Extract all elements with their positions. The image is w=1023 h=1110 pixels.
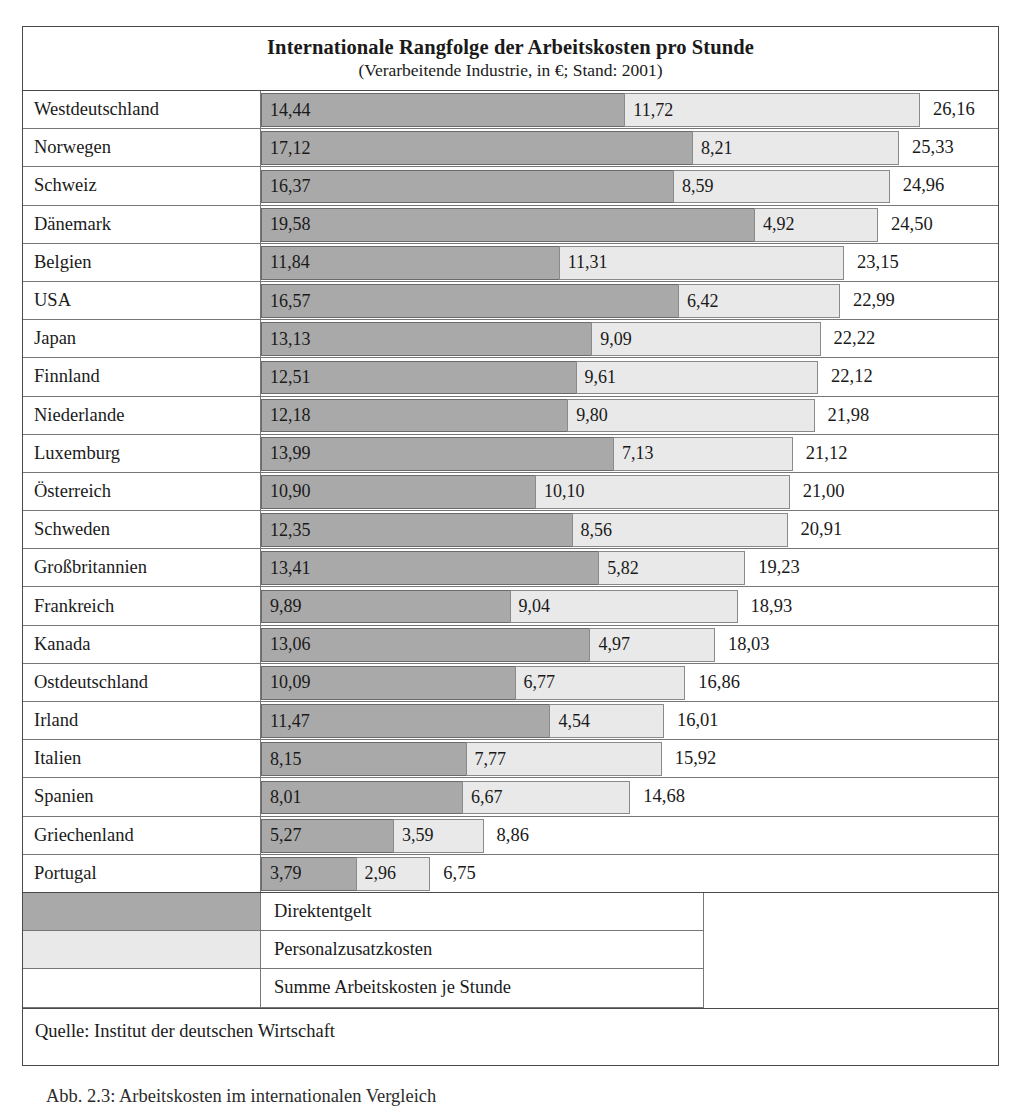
row-bars: 8,157,7715,92 [261,740,998,777]
bar-segment-direktentgelt: 13,06 [261,628,590,662]
row-country-label: Dänemark [23,206,261,243]
bar-segment-personalzusatzkosten: 10,10 [535,475,790,509]
bar-value-direktentgelt: 9,89 [270,596,302,617]
row-bars: 13,415,8219,23 [261,549,998,586]
legend-row: Personalzusatzkosten [23,931,998,969]
bar-value-direktentgelt: 11,47 [270,711,310,732]
bar-total-label: 15,92 [666,740,717,777]
chart-row: Irland11,474,5416,01 [23,702,998,740]
bar-segment-direktentgelt: 16,57 [261,284,679,318]
bar-value-direktentgelt: 19,58 [270,214,311,235]
chart-figure: Internationale Rangfolge der Arbeitskost… [22,26,999,1066]
bar-segment-direktentgelt: 10,90 [261,475,536,509]
bar-value-direktentgelt: 13,06 [270,634,311,655]
row-country-label: Niederlande [23,397,261,434]
row-country-label: Irland [23,702,261,739]
bar-segment-personalzusatzkosten: 6,67 [462,781,630,815]
chart-row: Spanien8,016,6714,68 [23,778,998,816]
chart-row: Österreich10,9010,1021,00 [23,473,998,511]
bar-total-label: 26,16 [924,91,975,128]
bar-total-label: 19,23 [749,549,800,586]
source-note: Quelle: Institut der deutschen Wirtschaf… [23,1008,998,1054]
bar-total-label: 21,00 [794,473,845,510]
bar-total-label: 24,96 [894,167,945,204]
row-bars: 16,576,4222,99 [261,282,998,319]
bar-value-personalzusatzkosten: 6,77 [524,672,556,693]
bar-segment-direktentgelt: 5,27 [261,819,394,853]
bar-total-label: 20,91 [792,511,843,548]
chart-row: Griechenland5,273,598,86 [23,817,998,855]
bar-total-label: 23,15 [848,244,899,281]
legend-row: Direktentgelt [23,893,998,931]
bar-total-label: 22,12 [822,358,873,395]
bar-value-personalzusatzkosten: 7,77 [475,749,507,770]
bar-segment-personalzusatzkosten: 3,59 [393,819,484,853]
bar-segment-personalzusatzkosten: 9,61 [576,361,818,395]
bar-segment-personalzusatzkosten: 11,31 [559,246,844,280]
bar-value-direktentgelt: 8,15 [270,749,302,770]
bar-value-personalzusatzkosten: 4,92 [763,214,795,235]
bar-segment-personalzusatzkosten: 5,82 [598,551,745,585]
bar-segment-direktentgelt: 13,99 [261,437,614,471]
bar-segment-direktentgelt: 11,47 [261,704,550,738]
figure-caption: Abb. 2.3: Arbeitskosten im international… [46,1086,436,1107]
chart-row: Italien8,157,7715,92 [23,740,998,778]
chart-row: Kanada13,064,9718,03 [23,626,998,664]
bar-total-label: 22,99 [844,282,895,319]
row-country-label: Schweden [23,511,261,548]
chart-row: Luxemburg13,997,1321,12 [23,435,998,473]
row-bars: 5,273,598,86 [261,817,998,854]
row-bars: 3,792,966,75 [261,855,998,892]
row-bars: 10,9010,1021,00 [261,473,998,510]
bar-value-personalzusatzkosten: 8,21 [701,138,733,159]
bar-segment-personalzusatzkosten: 4,97 [589,628,714,662]
bar-value-personalzusatzkosten: 11,31 [568,252,608,273]
bar-value-personalzusatzkosten: 2,96 [365,863,397,884]
chart-row: Portugal3,792,966,75 [23,855,998,893]
row-bars: 11,8411,3123,15 [261,244,998,281]
bar-segment-direktentgelt: 3,79 [261,857,357,891]
bar-total-label: 6,75 [434,855,475,892]
bar-segment-direktentgelt: 14,44 [261,93,625,127]
bar-segment-personalzusatzkosten: 11,72 [624,93,920,127]
bar-value-direktentgelt: 10,90 [270,481,311,502]
bar-segment-direktentgelt: 9,89 [261,590,511,624]
bar-value-personalzusatzkosten: 4,97 [598,634,630,655]
chart-row: Großbritannien13,415,8219,23 [23,549,998,587]
bar-segment-personalzusatzkosten: 2,96 [356,857,431,891]
bar-segment-direktentgelt: 11,84 [261,246,560,280]
bar-segment-direktentgelt: 13,41 [261,551,599,585]
chart-row: Schweiz16,378,5924,96 [23,167,998,205]
bar-value-direktentgelt: 12,18 [270,405,311,426]
bar-value-direktentgelt: 3,79 [270,863,302,884]
bar-value-direktentgelt: 5,27 [270,825,302,846]
chart-row: Norwegen17,128,2125,33 [23,129,998,167]
row-country-label: Portugal [23,855,261,892]
row-country-label: Norwegen [23,129,261,166]
chart-legend: DirektentgeltPersonalzusatzkostenSumme A… [23,893,998,1008]
bar-segment-direktentgelt: 16,37 [261,170,674,204]
row-bars: 13,139,0922,22 [261,320,998,357]
row-country-label: Spanien [23,778,261,815]
row-bars: 16,378,5924,96 [261,167,998,204]
chart-rows: Westdeutschland14,4411,7226,16Norwegen17… [23,91,998,893]
bar-segment-direktentgelt: 10,09 [261,666,516,700]
bar-value-personalzusatzkosten: 9,80 [576,405,608,426]
bar-value-personalzusatzkosten: 4,54 [558,711,590,732]
chart-row: Belgien11,8411,3123,15 [23,244,998,282]
chart-row: Japan13,139,0922,22 [23,320,998,358]
bar-total-label: 22,22 [825,320,876,357]
bar-segment-personalzusatzkosten: 7,77 [466,742,662,776]
row-bars: 14,4411,7226,16 [261,91,998,128]
bar-value-personalzusatzkosten: 3,59 [402,825,434,846]
chart-row: Westdeutschland14,4411,7226,16 [23,91,998,129]
bar-total-label: 8,86 [488,817,529,854]
page-title: Internationale Rangfolge der Arbeitskost… [23,35,998,59]
legend-row: Summe Arbeitskosten je Stunde [23,969,998,1007]
row-bars: 12,189,8021,98 [261,397,998,434]
bar-segment-direktentgelt: 17,12 [261,131,693,165]
chart-row: USA16,576,4222,99 [23,282,998,320]
row-bars: 12,358,5620,91 [261,511,998,548]
legend-label-extra: Personalzusatzkosten [261,931,704,969]
bar-value-personalzusatzkosten: 9,09 [600,329,632,350]
